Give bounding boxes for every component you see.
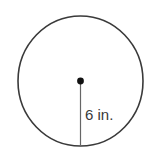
circle-diagram: 6 in. [0, 0, 152, 161]
center-dot [77, 78, 84, 85]
radius-label: 6 in. [85, 106, 113, 123]
